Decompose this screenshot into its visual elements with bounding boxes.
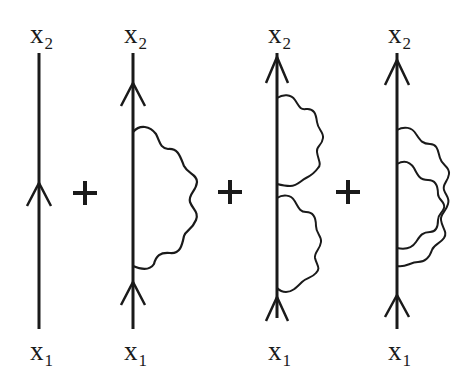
label-var: x: [30, 19, 44, 49]
label-subscript: 2: [283, 34, 292, 53]
plus-operator-3: [336, 180, 360, 204]
diagram-free-propagator: [27, 53, 51, 329]
photon-loop: [133, 127, 197, 269]
vertex-label-x2: x2: [388, 21, 411, 51]
label-subscript: 2: [45, 34, 54, 53]
photon-loop-upper: [277, 95, 323, 186]
plus-operator-2: [218, 180, 242, 204]
label-subscript: 2: [403, 34, 412, 53]
photon-loop-lower: [277, 196, 321, 292]
photon-loop-outer: [397, 128, 449, 267]
vertex-label-x2: x2: [268, 21, 291, 51]
diagram-two-loop-sequential: [266, 53, 323, 321]
label-var: x: [268, 336, 282, 366]
label-var: x: [124, 336, 138, 366]
plus-operator-1: [73, 181, 97, 205]
label-var: x: [388, 19, 402, 49]
photon-loop-inner: [397, 162, 444, 249]
vertex-label-x1: x1: [30, 338, 53, 368]
label-subscript: 1: [283, 351, 292, 370]
label-subscript: 1: [139, 351, 148, 370]
label-var: x: [388, 336, 402, 366]
vertex-label-x1: x1: [388, 338, 411, 368]
label-subscript: 2: [139, 34, 148, 53]
label-var: x: [268, 19, 282, 49]
vertex-label-x2: x2: [30, 21, 53, 51]
label-var: x: [124, 19, 138, 49]
vertex-label-x2: x2: [124, 21, 147, 51]
vertex-label-x1: x1: [268, 338, 291, 368]
label-var: x: [30, 336, 44, 366]
diagram-two-loop-overlapping: [385, 53, 449, 329]
label-subscript: 1: [403, 351, 412, 370]
label-subscript: 1: [45, 351, 54, 370]
diagram-one-loop-self-energy: [121, 53, 197, 329]
vertex-label-x1: x1: [124, 338, 147, 368]
